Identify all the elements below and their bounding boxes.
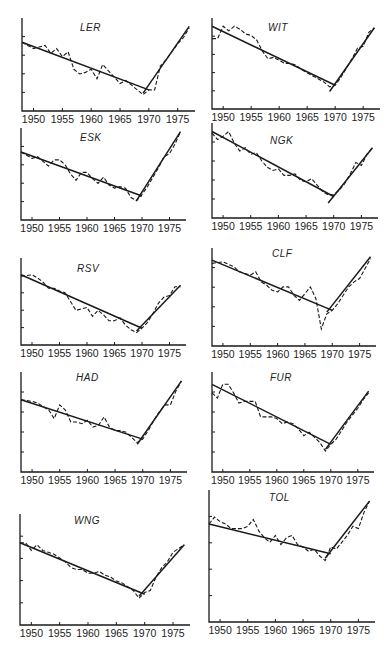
plot-area (0, 0, 392, 646)
panel-title: TOL (269, 492, 290, 503)
observed-dashed-line (209, 501, 370, 560)
x-tick-label: 1975 (347, 624, 370, 636)
x-tick-label: 1970 (319, 624, 342, 636)
axes (209, 490, 375, 622)
trend-line (325, 501, 369, 558)
x-tick-label: 1955 (236, 624, 259, 636)
x-tick-label: 1965 (291, 624, 314, 636)
x-tick-label: 1950 (208, 624, 231, 636)
trend-line (209, 524, 331, 554)
x-tick-label: 1960 (264, 624, 287, 636)
